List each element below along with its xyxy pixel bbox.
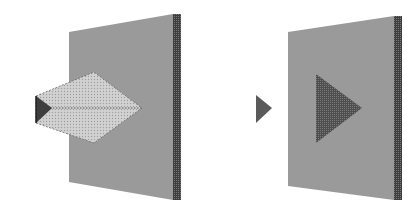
right-panel	[256, 16, 402, 200]
figure	[0, 0, 412, 212]
screen-edge	[173, 14, 181, 200]
screen-edge	[394, 16, 402, 200]
projection-diagram	[0, 0, 412, 212]
left-panel	[36, 14, 181, 200]
small-triangle-icon	[256, 95, 272, 123]
